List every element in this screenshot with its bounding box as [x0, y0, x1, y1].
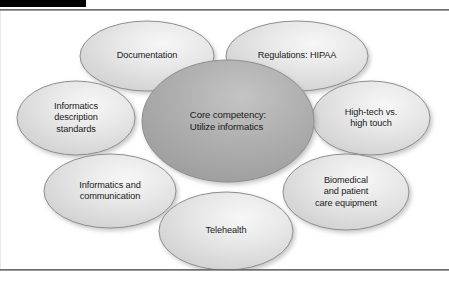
center-node-core-competency[interactable] — [142, 60, 314, 182]
bottom-divider-rule — [0, 269, 449, 271]
figure-root: DocumentationRegulations: HIPAAInformati… — [0, 0, 449, 282]
satellite-node-biomedical-and-patient-care-equipment[interactable] — [283, 154, 409, 230]
satellite-node-telehealth[interactable] — [159, 192, 293, 269]
diagram-canvas — [0, 11, 449, 269]
satellite-node-informatics-description-standards[interactable] — [17, 81, 135, 155]
top-black-bar — [0, 0, 86, 7]
satellite-node-informatics-and-communication[interactable] — [44, 154, 176, 228]
satellite-node-high-tech-vs-high-touch[interactable] — [312, 81, 430, 155]
